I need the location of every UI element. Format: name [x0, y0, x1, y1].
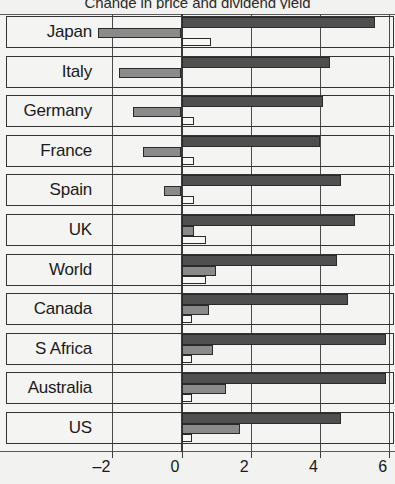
- bar-france-series3: [182, 157, 194, 165]
- chart-row: World: [0, 254, 395, 286]
- plot-area: JapanItalyGermanyFranceSpainUKWorldCanad…: [0, 14, 395, 452]
- category-label-france: France: [0, 141, 92, 161]
- bar-s-africa-series1: [182, 334, 386, 345]
- bar-italy-series2: [119, 68, 181, 78]
- bar-germany-series2: [133, 107, 181, 117]
- bar-germany-series3: [182, 117, 194, 125]
- axis-tick-label-0: 0: [120, 458, 180, 476]
- bar-us-series3: [182, 434, 192, 442]
- bar-spain-series2: [164, 186, 181, 196]
- bar-uk-series1: [182, 215, 355, 226]
- bar-italy-series1: [182, 57, 331, 68]
- chart-row: Germany: [0, 95, 395, 127]
- bar-australia-series2: [182, 384, 227, 394]
- chart-row: UK: [0, 214, 395, 246]
- bar-canada-series3: [182, 315, 192, 323]
- axis-tick-6: [389, 452, 390, 458]
- bar-france-series1: [182, 136, 320, 147]
- bar-spain-series3: [182, 196, 194, 204]
- chart-row: US: [0, 412, 395, 444]
- bar-france-series2: [143, 147, 181, 157]
- bar-s-africa-series2: [182, 345, 213, 355]
- bar-s-africa-series3: [182, 355, 192, 363]
- category-label-us: US: [0, 418, 92, 438]
- bar-australia-series3: [182, 394, 192, 402]
- plot-top-rule: [0, 14, 395, 15]
- bar-japan-series2: [98, 28, 181, 38]
- chart-row: Japan: [0, 16, 395, 48]
- category-label-italy: Italy: [0, 62, 92, 82]
- chart-title: Change in price and dividend yield: [0, 0, 395, 9]
- category-label-germany: Germany: [0, 101, 92, 121]
- bar-canada-series2: [182, 305, 210, 315]
- bar-japan-series1: [182, 17, 376, 28]
- category-label-s-africa: S Africa: [0, 339, 92, 359]
- bar-spain-series1: [182, 175, 341, 186]
- axis-tick-2: [251, 452, 252, 458]
- axis-tick-0: [182, 452, 183, 458]
- bar-us-series1: [182, 413, 341, 424]
- axis-tick-4: [320, 452, 321, 458]
- chart-row: France: [0, 135, 395, 167]
- bar-japan-series3: [182, 38, 211, 46]
- bar-germany-series1: [182, 96, 324, 107]
- bar-world-series2: [182, 266, 217, 276]
- axis-tick-label-4: 4: [258, 458, 318, 476]
- bar-uk-series3: [182, 236, 206, 244]
- bar-world-series3: [182, 276, 206, 284]
- axis-tick-label-2: 2: [189, 458, 249, 476]
- category-label-australia: Australia: [0, 378, 92, 398]
- chart-row: Italy: [0, 56, 395, 88]
- chart-row: S Africa: [0, 333, 395, 365]
- bar-canada-series1: [182, 294, 348, 305]
- axis-tick-label-6: 6: [327, 458, 387, 476]
- axis-tick-label-neg2: –2: [50, 458, 110, 476]
- chart-row: Australia: [0, 372, 395, 404]
- x-axis: –20246: [0, 452, 395, 484]
- category-label-canada: Canada: [0, 299, 92, 319]
- chart-row: Spain: [0, 174, 395, 206]
- category-label-uk: UK: [0, 220, 92, 240]
- category-label-spain: Spain: [0, 180, 92, 200]
- bar-uk-series2: [182, 226, 194, 236]
- axis-tick-neg2: [112, 452, 113, 458]
- category-label-japan: Japan: [0, 22, 92, 42]
- bar-us-series2: [182, 424, 241, 434]
- bar-australia-series1: [182, 373, 386, 384]
- chart-row: Canada: [0, 293, 395, 325]
- category-label-world: World: [0, 260, 92, 280]
- bar-world-series1: [182, 255, 338, 266]
